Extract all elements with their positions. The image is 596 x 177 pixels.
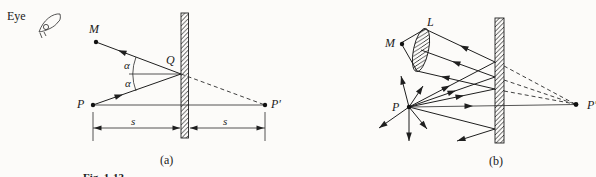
ray-p-to-q bbox=[93, 74, 181, 105]
axial-ray bbox=[409, 105, 576, 108]
virtual-ray-q-to-p-image bbox=[181, 74, 265, 105]
eye-icon bbox=[39, 14, 60, 38]
virtual-ray bbox=[504, 66, 575, 104]
arrowhead bbox=[406, 133, 412, 142]
optics-ray-diagram: Eye bbox=[0, 0, 596, 177]
eye-label: Eye bbox=[7, 9, 26, 23]
arrowhead bbox=[451, 59, 461, 67]
point-p-a bbox=[91, 103, 95, 107]
arrowhead bbox=[416, 84, 425, 94]
label-alpha-upper: α bbox=[124, 59, 130, 71]
arrowhead bbox=[456, 136, 466, 144]
arrowhead bbox=[459, 43, 469, 52]
panel-a: M Q P P′ α α s s (a) bbox=[76, 13, 281, 167]
point-p-image-a bbox=[263, 103, 267, 107]
label-m-a: M bbox=[88, 22, 100, 36]
panel-b: M L P P′ (b) bbox=[377, 15, 596, 168]
label-alpha-lower: α bbox=[125, 77, 131, 89]
arrowhead bbox=[441, 83, 451, 92]
mirror-a bbox=[181, 13, 189, 138]
point-p-b bbox=[407, 105, 411, 109]
arrowhead bbox=[377, 121, 387, 130]
arrowhead bbox=[173, 126, 181, 131]
arrowhead bbox=[257, 126, 265, 131]
mirror-b bbox=[495, 18, 504, 143]
arrowhead bbox=[117, 48, 127, 56]
figure-canvas: Eye bbox=[0, 0, 596, 177]
reflected-ray bbox=[417, 71, 495, 89]
label-p-b: P bbox=[391, 100, 400, 114]
virtual-ray bbox=[504, 91, 575, 104]
point-m-a bbox=[94, 40, 98, 44]
label-q-a: Q bbox=[166, 53, 175, 67]
point-m-b bbox=[400, 42, 404, 46]
label-panel-b: (b) bbox=[489, 154, 503, 168]
label-panel-a: (a) bbox=[160, 153, 173, 167]
label-m-b: M bbox=[384, 36, 396, 50]
arrowhead bbox=[440, 74, 450, 81]
arrowhead bbox=[455, 93, 464, 100]
label-s-left: s bbox=[131, 115, 135, 127]
arrowhead bbox=[190, 126, 198, 131]
arrowhead bbox=[94, 126, 102, 131]
point-p-image-b bbox=[574, 102, 579, 107]
arrowhead bbox=[114, 92, 124, 100]
arrowhead bbox=[464, 103, 473, 109]
incident-ray bbox=[409, 62, 495, 107]
arrowhead bbox=[398, 75, 406, 85]
label-p-image-a: P′ bbox=[270, 97, 281, 111]
label-p-image-b: P′ bbox=[586, 98, 596, 112]
figure-caption: Fig. 1-13 bbox=[83, 171, 124, 177]
label-p-a: P bbox=[76, 97, 85, 111]
virtual-ray bbox=[504, 80, 575, 104]
label-s-right: s bbox=[223, 115, 227, 127]
label-l-b: L bbox=[426, 15, 434, 29]
